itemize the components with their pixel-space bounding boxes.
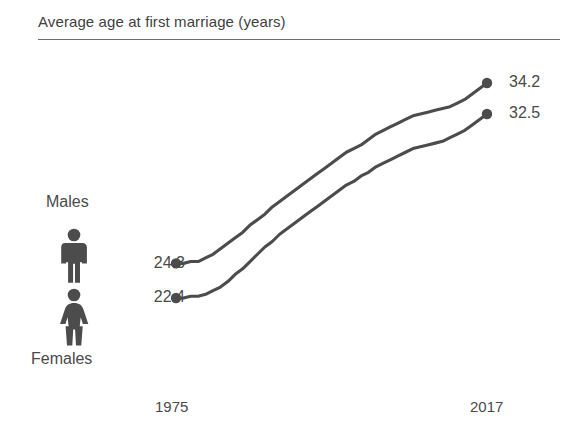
chart-container: Average age at first marriage (years) 34… bbox=[0, 0, 576, 430]
data-point-females-end bbox=[482, 109, 492, 119]
series-label-males: Males bbox=[46, 193, 89, 211]
value-label-females-start: 22.4 bbox=[154, 288, 185, 306]
female-pictogram-icon bbox=[52, 288, 96, 346]
axis-label-start-year: 1975 bbox=[155, 398, 188, 415]
data-point-males-end bbox=[482, 78, 492, 88]
value-label-males-end: 34.2 bbox=[509, 73, 540, 91]
series-line-females bbox=[176, 114, 487, 298]
series-line-males bbox=[176, 83, 487, 263]
axis-label-end-year: 2017 bbox=[470, 398, 503, 415]
series-label-females: Females bbox=[31, 350, 92, 368]
value-label-males-start: 24.3 bbox=[154, 254, 185, 272]
value-label-females-end: 32.5 bbox=[509, 104, 540, 122]
male-pictogram-icon bbox=[54, 228, 94, 284]
